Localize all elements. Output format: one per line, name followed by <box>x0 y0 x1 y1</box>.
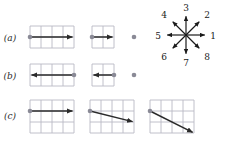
direction-label-8: 8 <box>204 52 210 62</box>
panel-a-1-origin-dot <box>28 35 33 40</box>
panel-b-2-origin-dot <box>112 73 117 78</box>
panel-c-1-origin-dot <box>28 109 33 114</box>
motion-vector-figure: (a)(b)(c) 12345678 <box>0 0 227 145</box>
panel-b-3 <box>132 73 137 78</box>
direction-label-5: 5 <box>155 31 161 41</box>
figure-background <box>0 0 227 145</box>
panel-b-1-origin-dot <box>72 73 77 78</box>
panel-a-3 <box>132 35 137 40</box>
direction-label-7: 7 <box>183 58 189 68</box>
panel-c-3-origin-dot <box>148 109 153 114</box>
panel-a-2-origin-dot <box>90 35 95 40</box>
direction-label-4: 4 <box>161 10 167 20</box>
direction-label-3: 3 <box>183 3 189 13</box>
panel-b-3-origin-dot <box>132 73 137 78</box>
direction-label-2: 2 <box>204 10 210 20</box>
direction-label-1: 1 <box>210 31 216 41</box>
row-label-2: (c) <box>4 111 17 121</box>
panel-c-2-origin-dot <box>88 109 93 114</box>
row-label-0: (a) <box>4 33 17 43</box>
row-label-1: (b) <box>4 71 17 81</box>
panel-a-3-origin-dot <box>132 35 137 40</box>
direction-label-6: 6 <box>161 52 167 62</box>
